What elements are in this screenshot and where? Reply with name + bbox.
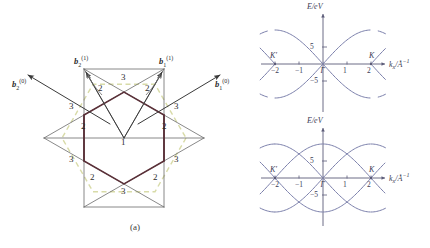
zone-number: 2 xyxy=(81,121,86,131)
y-axis-label: E/eV xyxy=(307,116,323,125)
zone-number: 3 xyxy=(121,72,126,82)
k-point-label: K xyxy=(369,165,374,174)
figure-root: b2(0) b1(0) b2(1) b1(1) 1222222333333 (a… xyxy=(0,0,430,248)
x-tick-label: −1 xyxy=(295,66,303,75)
y-tick-label: −5 xyxy=(310,76,318,85)
zone-number: 2 xyxy=(145,83,150,93)
x-tick-label: 2 xyxy=(367,66,371,75)
y-tick-label: 5 xyxy=(310,42,314,51)
zone-number: 3 xyxy=(121,186,126,196)
k-point-label: K′ xyxy=(270,165,277,174)
vector-label-b2-1: b2(1) xyxy=(74,55,88,68)
x-axis-label: kx/Å−1 xyxy=(389,172,409,184)
panel-b: −2−1Γ12−55E/eVkx/Å−1K′K−2−1Γ12−55E/eVkx/… xyxy=(255,0,430,248)
y-tick-label: −5 xyxy=(310,190,318,199)
zone-number: 2 xyxy=(98,83,103,93)
k-point-label: K xyxy=(369,51,374,60)
panel-a-diagram xyxy=(0,0,255,248)
zone-number: 2 xyxy=(90,172,95,182)
k-point-label: K′ xyxy=(270,51,277,60)
x-tick-label: Γ xyxy=(321,180,325,189)
x-tick-label: −2 xyxy=(271,66,279,75)
zone-number: 3 xyxy=(174,101,179,111)
x-tick-label: Γ xyxy=(321,66,325,75)
y-axis-label: E/eV xyxy=(307,2,323,11)
y-tick-label: 5 xyxy=(310,156,314,165)
x-tick-label: −1 xyxy=(295,180,303,189)
zone-number: 3 xyxy=(69,154,74,164)
x-tick-label: 2 xyxy=(367,180,371,189)
caption-a: (a) xyxy=(115,222,155,232)
vector-label-b2-0: b2(0) xyxy=(12,78,26,91)
zone-number: 2 xyxy=(162,121,167,131)
x-axis-label: kx/Å−1 xyxy=(389,58,409,70)
panel-a: b2(0) b1(0) b2(1) b1(1) 1222222333333 (a… xyxy=(0,0,255,248)
x-tick-label: 1 xyxy=(343,180,347,189)
zone-number: 3 xyxy=(174,154,179,164)
x-tick-label: −2 xyxy=(271,180,279,189)
zone-number: 3 xyxy=(69,101,74,111)
vector-label-b1-0: b1(0) xyxy=(215,78,229,91)
x-tick-label: 1 xyxy=(343,66,347,75)
panel-b-charts xyxy=(255,0,430,248)
zone-number: 1 xyxy=(121,137,126,147)
zone-number: 2 xyxy=(153,172,158,182)
vector-label-b1-1: b1(1) xyxy=(159,55,173,68)
